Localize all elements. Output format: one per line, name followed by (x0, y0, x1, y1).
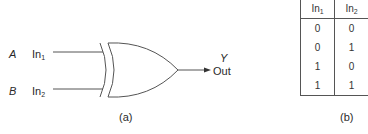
caption-b: (b) (340, 111, 353, 123)
table-row: 1 1 (301, 76, 368, 96)
table-row: 0 0 (301, 19, 368, 39)
port-label-in1: In1 (32, 48, 45, 64)
caption-a: (a) (119, 111, 132, 123)
table-row: 0 1 (301, 38, 368, 57)
table-cell: 0 (335, 57, 368, 76)
table-cell: 1 (301, 76, 335, 96)
table-cell: 0 (301, 19, 335, 39)
port-label-text: In (32, 85, 41, 97)
table-cell: 1 (301, 57, 335, 76)
truth-table: In1 In2 0 0 0 1 1 0 1 1 (300, 0, 368, 96)
port-label-in2: In2 (32, 85, 45, 101)
table-cell: 0 (335, 19, 368, 39)
port-label-out: Out (213, 65, 231, 77)
port-label-subscript: 1 (41, 54, 45, 61)
arrowhead-icon (204, 68, 211, 73)
table-cell: 1 (335, 76, 368, 96)
header-in1: In1 (301, 0, 335, 19)
signal-label-y: Y (220, 52, 227, 64)
signal-label-a: A (9, 48, 16, 60)
table-cell: 1 (335, 38, 368, 57)
xor-gate-body (108, 43, 178, 97)
header-in2: In2 (335, 0, 368, 19)
port-label-text: In (32, 48, 41, 60)
table-row: 1 0 (301, 57, 368, 76)
table-header-row: In1 In2 (301, 0, 368, 19)
signal-label-b: B (9, 85, 16, 97)
port-label-subscript: 2 (41, 91, 45, 98)
table-cell: 0 (301, 38, 335, 57)
